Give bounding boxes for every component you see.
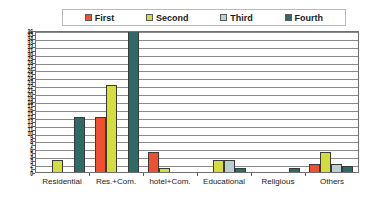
x-axis-label: Religious [251, 177, 305, 191]
x-axis-label: Res.+Com. [89, 177, 143, 191]
x-tick-mark [305, 173, 306, 176]
bar-group-res-com [90, 32, 144, 172]
bar-series-layer [36, 32, 358, 172]
bar-first[interactable] [148, 152, 159, 172]
plot-area [35, 31, 359, 173]
y-axis-tick-labels: 3635343332313029282726252423222120191817… [12, 26, 33, 176]
bar-fourth[interactable] [289, 168, 300, 172]
bar-first[interactable] [95, 117, 106, 172]
x-axis-label: hotel+Com. [143, 177, 197, 191]
legend-label: First [95, 13, 115, 23]
bar-second[interactable] [52, 160, 63, 172]
legend-label: Third [230, 13, 253, 23]
bar-fourth[interactable] [342, 166, 353, 172]
x-axis-label: Residential [35, 177, 89, 191]
bar-second[interactable] [106, 85, 117, 172]
x-tick-mark [89, 173, 90, 176]
bar-second[interactable] [320, 152, 331, 172]
bar-group-others [304, 32, 358, 172]
legend-label: Fourth [295, 13, 324, 23]
x-axis-label: Educational [197, 177, 251, 191]
bar-fourth[interactable] [128, 31, 139, 172]
legend-label: Second [156, 13, 189, 23]
bar-fourth[interactable] [74, 117, 85, 172]
bar-chart-figure: FirstSecondThirdFourth 36353433323130292… [0, 0, 373, 200]
bar-third[interactable] [331, 164, 342, 172]
bar-group-residential [36, 32, 90, 172]
legend-entry-third[interactable]: Third [220, 13, 253, 23]
legend-swatch-icon [285, 14, 292, 21]
legend-swatch-icon [85, 14, 92, 21]
bar-group-religious [251, 32, 305, 172]
bar-second[interactable] [213, 160, 224, 172]
x-axis-category-labels: ResidentialRes.+Com.hotel+Com.Educationa… [35, 177, 359, 191]
bar-fourth[interactable] [235, 168, 246, 172]
legend-entry-first[interactable]: First [85, 13, 115, 23]
x-axis-label: Others [305, 177, 359, 191]
chart-legend: FirstSecondThirdFourth [62, 9, 346, 26]
legend-entry-second[interactable]: Second [146, 13, 189, 23]
bar-second[interactable] [159, 168, 170, 172]
bar-third[interactable] [224, 160, 235, 172]
legend-swatch-icon [220, 14, 227, 21]
bar-first[interactable] [309, 164, 320, 172]
x-tick-mark [143, 173, 144, 176]
legend-entry-fourth[interactable]: Fourth [285, 13, 324, 23]
bar-group-educational [197, 32, 251, 172]
legend-swatch-icon [146, 14, 153, 21]
x-tick-mark [197, 173, 198, 176]
x-tick-mark [251, 173, 252, 176]
bar-group-hotel-com [143, 32, 197, 172]
